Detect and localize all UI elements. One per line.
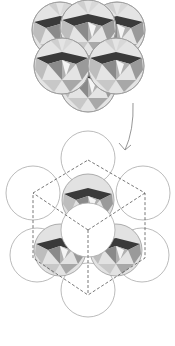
close-packed-cluster	[32, 0, 145, 112]
transition-arrow-icon	[119, 103, 133, 150]
sphere	[88, 38, 144, 94]
sphere	[34, 38, 90, 94]
sphere-packing-diagram	[0, 0, 175, 346]
cube-projection-figure	[6, 131, 170, 317]
